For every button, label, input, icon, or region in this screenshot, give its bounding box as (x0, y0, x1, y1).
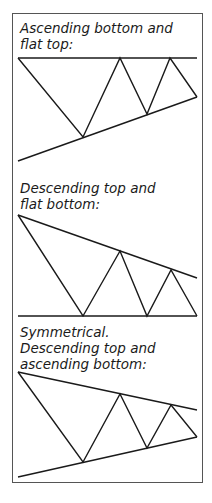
triangle-patterns-drawing (0, 0, 212, 503)
price-zigzag (18, 372, 197, 462)
price-zigzag (18, 58, 197, 137)
ascending-bottom-line (18, 437, 197, 477)
descending-top-line (18, 215, 197, 278)
descending-triangle-diagram (18, 215, 197, 316)
price-zigzag (18, 215, 197, 316)
descending-top-line (18, 372, 197, 410)
symmetrical-triangle-diagram (18, 372, 197, 477)
ascending-bottom-line (18, 97, 197, 161)
ascending-triangle-diagram (18, 58, 197, 161)
